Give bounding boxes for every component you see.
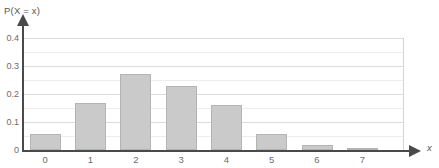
x-tick-label-3: 3 [169,154,193,165]
x-tick-label-4: 4 [214,154,238,165]
bar-2 [120,74,151,150]
y-tick-label-0.4: 0.4 [0,33,19,43]
x-tick-label-2: 2 [124,154,148,165]
bar-5 [256,134,287,150]
x-tick-label-5: 5 [260,154,284,165]
y-tick-label-0.3: 0.3 [0,61,19,71]
probability-mass-function-chart: P(X = x) x 00.10.20.30.4 01234567 [0,0,439,168]
gridline-0.35 [22,52,403,53]
x-axis-arrow-icon [409,145,421,157]
bar-0 [30,134,61,150]
bar-4 [211,105,242,150]
y-tick-label-0.1: 0.1 [0,117,19,127]
gridline-0.25 [22,80,403,81]
gridline-0.3 [22,66,403,67]
y-axis-line [22,24,24,151]
bar-3 [166,86,197,150]
gridline-0.4 [22,38,403,39]
y-tick-label-0: 0 [0,145,19,155]
y-axis-tick-labels: 00.10.20.30.4 [0,0,19,168]
x-tick-label-1: 1 [79,154,103,165]
gridline-0.2 [22,94,403,95]
x-axis-line [22,150,412,152]
x-tick-label-0: 0 [33,154,57,165]
bar-1 [75,103,106,150]
x-axis-title: x [427,142,432,153]
plot-right-border [403,38,404,151]
y-tick-label-0.2: 0.2 [0,89,19,99]
x-tick-label-7: 7 [350,154,374,165]
x-tick-label-6: 6 [305,154,329,165]
plot-area [22,38,403,150]
